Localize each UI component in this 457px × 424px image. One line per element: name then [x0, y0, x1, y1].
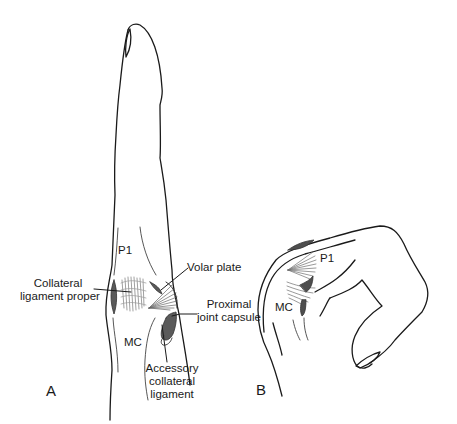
panel-letter-b: B — [256, 381, 266, 398]
panel-a-finger-outline — [106, 24, 190, 420]
label-accessory-line-2: collateral — [140, 375, 204, 388]
label-collateral-line-2: ligament proper — [20, 290, 96, 303]
leader-volar-plate — [161, 268, 188, 290]
label-proximal-line-1: Proximal — [196, 298, 262, 311]
panel-letter-a: A — [46, 382, 56, 399]
panel-a-lateral-shade — [111, 280, 117, 314]
label-p1-b: P1 — [320, 252, 334, 265]
label-collateral-ligament-proper: Collateral ligament proper — [20, 277, 96, 303]
label-mc-b: MC — [275, 301, 293, 314]
panel-a-volar-shade — [150, 282, 162, 294]
label-proximal-line-2: joint capsule — [196, 311, 262, 324]
label-collateral-line-1: Collateral — [20, 277, 96, 290]
label-proximal-joint-capsule: Proximal joint capsule — [196, 298, 262, 324]
anatomical-figure: P1 Collateral ligament proper Volar plat… — [0, 0, 457, 424]
label-p1-a: P1 — [118, 244, 132, 257]
panel-b-capsule-shade — [301, 300, 307, 316]
illustration-svg — [0, 0, 457, 424]
label-accessory-collateral-ligament: Accessory collateral ligament — [140, 362, 204, 401]
panel-b-volar-shade — [300, 276, 313, 292]
label-mc-a: MC — [124, 336, 142, 349]
label-volar-plate: Volar plate — [187, 261, 241, 274]
panel-a-collateral-ligament-proper — [121, 277, 146, 311]
label-accessory-line-1: Accessory — [140, 362, 204, 375]
panel-b-dorsal-shade — [288, 240, 314, 250]
panel-b-bone-lines — [293, 318, 308, 340]
label-accessory-line-3: ligament — [140, 388, 204, 401]
